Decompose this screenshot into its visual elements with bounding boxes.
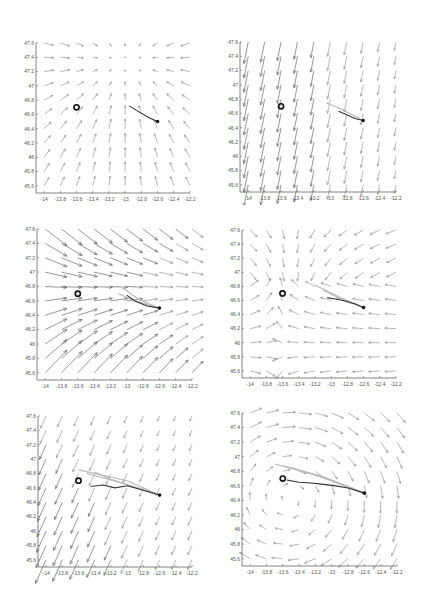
y-tick-label: 47.2 <box>25 255 35 261</box>
y-tick-label: 47.4 <box>24 54 34 60</box>
y-tick-label: 46.4 <box>230 311 240 317</box>
y-tick-label: 47.2 <box>230 255 240 261</box>
x-tick-label: -12.6 <box>154 570 166 576</box>
panel-bottom-left: 45.645.84646.246.446.646.84747.247.447.6… <box>0 405 211 606</box>
x-tick-label: -12.4 <box>168 196 180 202</box>
y-tick-label: 46.2 <box>26 513 36 519</box>
x-tick-label: -13.8 <box>56 383 68 389</box>
y-tick-label: 46.2 <box>25 326 35 332</box>
arrow-field <box>44 43 190 186</box>
quiver-plot: 45.645.84646.246.446.646.84747.247.447.6… <box>211 205 422 405</box>
ensemble-track <box>119 294 160 308</box>
y-tick-label: 47.4 <box>25 240 35 246</box>
x-tick-label: -14 <box>247 569 254 575</box>
y-tick-label: 46.2 <box>24 140 34 146</box>
x-tick-label: -12.6 <box>358 381 370 387</box>
y-tick-label: 45.8 <box>230 354 240 360</box>
y-tick-label: 47.6 <box>228 39 238 45</box>
quiver-plot: 45.645.84646.246.446.646.84747.247.447.6… <box>0 405 211 606</box>
x-tick-label: -13 <box>122 196 129 202</box>
x-tick-label: -12.6 <box>154 383 166 389</box>
y-tick-label: 47 <box>234 454 240 460</box>
y-tick-label: 47.6 <box>25 226 35 232</box>
target-circle-icon <box>74 105 79 110</box>
y-tick-label: 47 <box>232 82 238 88</box>
arrow-field <box>35 416 192 583</box>
x-tick-label: -13 <box>328 381 335 387</box>
x-tick-label: -13.2 <box>308 195 320 201</box>
panel-bottom-right: 45.645.84646.246.446.646.84747.247.447.6… <box>211 405 422 606</box>
y-tick-label: 46.6 <box>230 483 240 489</box>
y-tick-label: 47.6 <box>230 227 240 233</box>
target-circle-icon <box>280 476 285 481</box>
y-tick-label: 46.8 <box>24 97 34 103</box>
panel-top-left: 45.645.84646.246.446.646.84747.247.447.6… <box>0 0 211 205</box>
y-tick-label: 47.2 <box>228 67 238 73</box>
x-tick-label: -13 <box>327 195 334 201</box>
y-tick-label: 45.8 <box>228 167 238 173</box>
y-tick-label: 47 <box>30 456 36 462</box>
x-tick-label: -12.6 <box>359 569 371 575</box>
y-tick-label: 47 <box>29 269 35 275</box>
x-tick-label: -13.4 <box>88 383 100 389</box>
y-tick-label: 47.4 <box>230 241 240 247</box>
x-tick-label: -12.2 <box>391 569 403 575</box>
start-dot-icon <box>362 306 366 310</box>
y-tick-label: 47.2 <box>230 439 240 445</box>
x-tick-label: -12.8 <box>341 195 353 201</box>
x-tick-label: -13.4 <box>87 196 99 202</box>
x-tick-label: -13.8 <box>57 570 69 576</box>
y-tick-label: 45.6 <box>24 183 34 189</box>
y-tick-label: 45.8 <box>26 542 36 548</box>
panel-top-right: 45.645.84646.246.446.646.84747.247.447.6… <box>211 0 422 205</box>
y-tick-label: 46 <box>28 154 34 160</box>
y-tick-label: 46.4 <box>26 499 36 505</box>
x-tick-label: -12.4 <box>374 195 386 201</box>
x-tick-label: -13 <box>328 569 335 575</box>
arrow-field <box>45 229 203 373</box>
target-circle-icon <box>278 104 283 109</box>
y-tick-label: 45.6 <box>25 370 35 376</box>
y-tick-label: 47.6 <box>26 413 36 419</box>
target-circle-icon <box>76 478 81 483</box>
target-circle-icon <box>280 291 285 296</box>
y-tick-label: 47 <box>28 83 34 89</box>
y-tick-label: 46.8 <box>228 96 238 102</box>
y-tick-label: 46.4 <box>24 126 34 132</box>
y-tick-label: 46 <box>29 341 35 347</box>
x-tick-label: -12.4 <box>170 383 182 389</box>
x-tick-label: -14 <box>40 196 47 202</box>
quiver-plot: 45.645.84646.246.446.646.84747.247.447.6… <box>211 0 422 205</box>
y-tick-label: 46.2 <box>230 325 240 331</box>
y-tick-label: 45.8 <box>230 541 240 547</box>
x-tick-label: -13.6 <box>73 570 85 576</box>
trajectory-line <box>287 480 365 493</box>
x-tick-label: -13.2 <box>105 383 117 389</box>
x-tick-label: -12.2 <box>186 570 198 576</box>
x-tick-label: -12.8 <box>136 196 148 202</box>
x-tick-label: -13.8 <box>55 196 67 202</box>
y-tick-label: 45.6 <box>26 557 36 563</box>
y-tick-label: 45.8 <box>25 355 35 361</box>
x-tick-label: -13.2 <box>310 569 322 575</box>
x-tick-label: -13.4 <box>293 569 305 575</box>
quiver-plot: 45.645.84646.246.446.646.84747.247.447.6… <box>211 405 422 606</box>
y-tick-label: 46.8 <box>25 283 35 289</box>
x-tick-label: -13.6 <box>72 383 84 389</box>
y-tick-label: 46.6 <box>24 111 34 117</box>
y-tick-label: 46.4 <box>25 312 35 318</box>
y-tick-label: 45.6 <box>230 368 240 374</box>
y-tick-label: 47.6 <box>24 40 34 46</box>
y-tick-label: 46.4 <box>228 125 238 131</box>
y-tick-label: 46.2 <box>228 139 238 145</box>
x-tick-label: -13.6 <box>277 569 289 575</box>
y-tick-label: 46 <box>234 340 240 346</box>
y-tick-label: 46.4 <box>230 497 240 503</box>
x-tick-label: -14 <box>42 383 49 389</box>
y-tick-label: 45.6 <box>230 556 240 562</box>
quiver-plot: 45.645.84646.246.446.646.84747.247.447.6… <box>0 0 211 205</box>
target-circle-icon <box>75 291 80 296</box>
x-tick-label: -13.2 <box>105 570 117 576</box>
x-tick-label: -13.6 <box>277 381 289 387</box>
y-tick-label: 46 <box>234 526 240 532</box>
